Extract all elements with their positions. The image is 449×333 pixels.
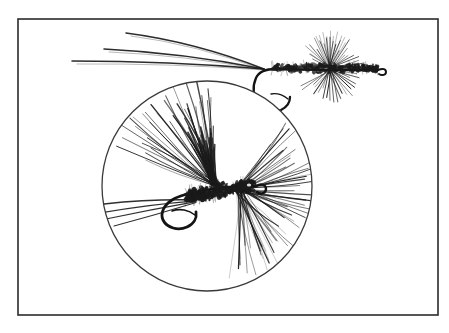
fly-illustration [0, 0, 449, 333]
illustration-canvas [0, 0, 449, 333]
